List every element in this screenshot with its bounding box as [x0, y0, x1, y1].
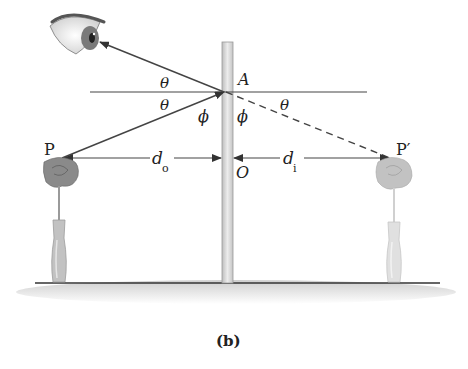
plane-mirror	[222, 42, 233, 283]
label-theta-upper: θ	[160, 74, 169, 92]
label-image-P-prime: P′	[396, 140, 411, 159]
label-point-A: A	[236, 70, 250, 89]
label-object-P: P	[44, 140, 55, 159]
label-d-object: d o	[152, 148, 169, 175]
floor	[16, 280, 456, 304]
label-phi-right: ϕ	[237, 107, 248, 126]
figure-caption: (b)	[216, 332, 241, 350]
eye-icon	[50, 15, 104, 54]
image-rose	[376, 157, 412, 222]
label-phi-left: ϕ	[198, 107, 209, 126]
image-vase	[387, 222, 402, 282]
label-point-O: O	[236, 163, 249, 182]
object-rose	[43, 157, 78, 220]
label-d-image: d i	[283, 148, 297, 175]
svg-text:i: i	[293, 162, 297, 175]
object-vase	[52, 220, 67, 282]
svg-text:o: o	[162, 162, 169, 175]
label-theta-lower: θ	[160, 96, 169, 114]
label-theta-right: θ	[280, 96, 289, 114]
plane-mirror-diagram: A θ θ θ ϕ ϕ P P′ O d o d i (b)	[0, 0, 468, 369]
virtual-ray	[226, 92, 390, 158]
